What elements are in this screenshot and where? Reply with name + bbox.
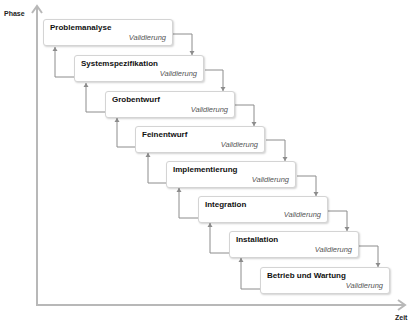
phase-box-systemspezifikation: Systemspezifikation Validierung — [74, 55, 204, 82]
phase-title: Feinentwurf — [142, 130, 187, 139]
phase-validation-label: Validierung — [315, 245, 352, 254]
phase-box-grobentwurf: Grobentwurf Validierung — [105, 91, 235, 118]
phase-validation-label: Validierung — [252, 175, 289, 184]
phase-title: Integration — [205, 200, 246, 209]
phase-validation-label: Validierung — [191, 105, 228, 114]
phase-box-betrieb-und-wartung: Betrieb und Wartung Validierung — [260, 267, 390, 294]
axes — [32, 6, 405, 310]
phase-validation-label: Validierung — [346, 281, 383, 290]
phase-title: Grobentwurf — [112, 95, 160, 104]
phase-box-implementierung: Implementierung Validierung — [166, 161, 296, 188]
phase-title: Installation — [236, 235, 278, 244]
phase-validation-label: Validierung — [284, 210, 321, 219]
phase-title: Implementierung — [173, 165, 237, 174]
phase-box-integration: Integration Validierung — [198, 196, 328, 223]
y-axis-label: Phase — [4, 10, 25, 17]
x-axis-label: Zeit — [395, 314, 407, 321]
phase-validation-label: Validierung — [160, 69, 197, 78]
phase-title: Problemanalyse — [50, 23, 111, 32]
phase-box-feinentwurf: Feinentwurf Validierung — [135, 126, 265, 153]
phase-box-problemanalyse: Problemanalyse Validierung — [43, 19, 173, 46]
phase-title: Betrieb und Wartung — [267, 271, 346, 280]
phase-validation-label: Validierung — [129, 33, 166, 42]
phase-validation-label: Validierung — [221, 140, 258, 149]
phase-box-installation: Installation Validierung — [229, 231, 359, 258]
phase-title: Systemspezifikation — [81, 59, 158, 68]
